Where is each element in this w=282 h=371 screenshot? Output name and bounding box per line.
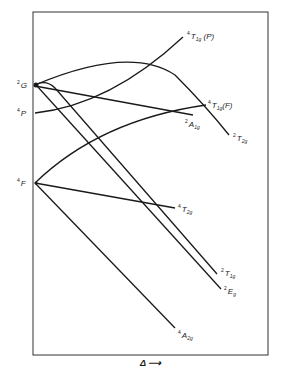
state-label-2T2g: 2T2g (233, 133, 247, 144)
term-label-4F: 4F (17, 178, 26, 188)
state-label-4T1g-P: 4T1g (P) (187, 31, 214, 42)
energy-diagram (0, 0, 282, 371)
state-label-4A2g: 4A2g (178, 330, 193, 341)
x-axis-label: Δ ⟶ (140, 359, 161, 368)
line-4T1g-F (35, 105, 206, 183)
line-2T1g (37, 83, 217, 274)
state-label-4T1g-F: 4T1g(F) (208, 100, 232, 111)
state-label-2A1g: 2A1g (185, 119, 200, 130)
state-label-2Eg: 2Eg (224, 286, 236, 297)
state-label-4T2g: 4T2g (178, 204, 192, 215)
state-label-2T1g: 2T1g (221, 268, 235, 279)
line-2Eg (37, 86, 221, 289)
term-label-4P: 4P (17, 108, 26, 118)
term-label-2G: 2G (17, 80, 27, 90)
line-4T1g-P (35, 37, 183, 113)
